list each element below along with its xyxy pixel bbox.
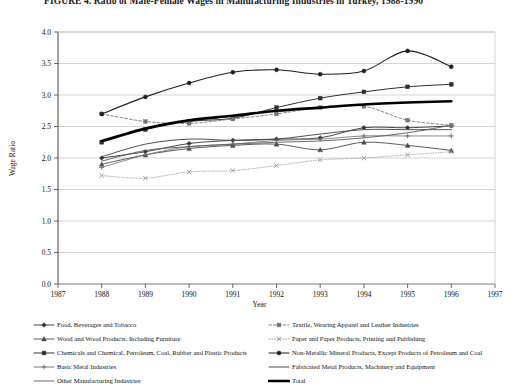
legend-column-right: Textile, Wearing Apparel and Leather Ind… bbox=[268, 318, 516, 388]
legend-swatch bbox=[268, 375, 290, 387]
data-point-marker bbox=[275, 68, 279, 72]
data-point-marker bbox=[187, 81, 191, 85]
legend-marker-icon bbox=[33, 361, 55, 373]
x-tick-label: 1987 bbox=[51, 290, 66, 299]
legend-label: Paper and Paper Products, Printing and P… bbox=[292, 336, 425, 343]
data-point-marker bbox=[144, 120, 148, 124]
x-tick-label: 1990 bbox=[182, 290, 197, 299]
legend-item[interactable]: Food, Beverages and Tobacco bbox=[33, 318, 273, 332]
legend-swatch bbox=[33, 361, 55, 373]
x-tick-label: 1996 bbox=[444, 290, 459, 299]
legend-marker-icon bbox=[33, 375, 55, 387]
legend-swatch bbox=[268, 361, 290, 373]
legend-item[interactable]: Paper and Paper Products, Printing and P… bbox=[268, 332, 516, 346]
y-tick-label: 4.0 bbox=[42, 28, 52, 37]
legend-marker-icon bbox=[268, 375, 290, 387]
legend-label: Wood and Wood Products, Including Furnit… bbox=[57, 336, 180, 343]
legend-swatch bbox=[268, 347, 290, 359]
legend-marker-icon bbox=[268, 347, 290, 359]
data-point-marker bbox=[449, 65, 453, 69]
y-tick-label: 3.5 bbox=[42, 59, 52, 68]
legend-item[interactable]: Non-Metallic Mineral Products, Except Pr… bbox=[268, 346, 516, 360]
legend-marker-icon bbox=[33, 347, 55, 359]
legend-item[interactable]: Fabricated Metal Products, Machinery and… bbox=[268, 360, 516, 374]
data-point-marker bbox=[42, 323, 47, 328]
legend-marker-icon bbox=[33, 333, 55, 345]
y-tick-label: 1.0 bbox=[42, 217, 52, 226]
data-point-marker bbox=[318, 72, 322, 76]
y-tick-label: 2.5 bbox=[42, 122, 52, 131]
data-point-marker bbox=[362, 90, 366, 94]
data-point-marker bbox=[277, 323, 281, 327]
chart-plot-area: 0.00.51.01.52.02.53.03.54.01987198819891… bbox=[0, 14, 519, 314]
legend-label: Other Manufacturing Industries bbox=[57, 378, 141, 385]
y-axis-title: Wage Ratio bbox=[8, 129, 17, 189]
legend-marker-icon bbox=[268, 319, 290, 331]
series-line bbox=[102, 51, 452, 114]
x-tick-label: 1989 bbox=[138, 290, 153, 299]
legend-swatch bbox=[33, 375, 55, 387]
y-tick-label: 0.0 bbox=[42, 280, 52, 289]
data-point-marker bbox=[100, 112, 104, 116]
legend-item[interactable]: Wood and Wood Products, Including Furnit… bbox=[33, 332, 273, 346]
legend-item[interactable]: Basic Metal Industries bbox=[33, 360, 273, 374]
x-tick-label: 1992 bbox=[269, 290, 284, 299]
chart-legend: Food, Beverages and TobaccoWood and Wood… bbox=[0, 318, 519, 389]
legend-column-left: Food, Beverages and TobaccoWood and Wood… bbox=[33, 318, 273, 388]
legend-label: Total bbox=[292, 378, 305, 385]
data-point-marker bbox=[42, 351, 46, 355]
legend-item[interactable]: Textile, Wearing Apparel and Leather Ind… bbox=[268, 318, 516, 332]
legend-label: Chemicals and Chemical, Petroleum, Coal,… bbox=[57, 350, 247, 357]
data-point-marker bbox=[231, 117, 235, 121]
data-point-marker bbox=[187, 121, 191, 125]
legend-swatch bbox=[268, 319, 290, 331]
x-tick-label: 1991 bbox=[225, 290, 240, 299]
legend-swatch bbox=[33, 319, 55, 331]
data-point-marker bbox=[275, 112, 279, 116]
series-6 bbox=[100, 150, 454, 181]
legend-swatch bbox=[33, 333, 55, 345]
x-tick-label: 1995 bbox=[400, 290, 415, 299]
data-point-marker bbox=[406, 49, 410, 53]
legend-item[interactable]: Chemicals and Chemical, Petroleum, Coal,… bbox=[33, 346, 273, 360]
y-tick-label: 0.5 bbox=[42, 248, 52, 257]
data-point-marker bbox=[449, 123, 453, 127]
x-tick-label: 1993 bbox=[313, 290, 328, 299]
data-point-marker bbox=[277, 351, 281, 355]
legend-label: Non-Metallic Mineral Products, Except Pr… bbox=[292, 350, 482, 357]
data-point-marker bbox=[318, 96, 322, 100]
legend-marker-icon bbox=[33, 319, 55, 331]
legend-label: Fabricated Metal Products, Machinery and… bbox=[292, 364, 435, 371]
legend-swatch bbox=[268, 333, 290, 345]
legend-marker-icon bbox=[268, 361, 290, 373]
legend-marker-icon bbox=[268, 333, 290, 345]
x-axis-title: Year bbox=[0, 300, 519, 309]
data-point-marker bbox=[449, 82, 453, 86]
data-point-marker bbox=[406, 118, 410, 122]
x-tick-label: 1997 bbox=[488, 290, 503, 299]
y-tick-label: 3.0 bbox=[42, 91, 52, 100]
x-tick-label: 1988 bbox=[94, 290, 109, 299]
data-point-marker bbox=[406, 85, 410, 89]
legend-label: Basic Metal Industries bbox=[57, 364, 116, 371]
legend-item[interactable]: Other Manufacturing Industries bbox=[33, 374, 273, 388]
y-tick-label: 1.5 bbox=[42, 185, 52, 194]
y-tick-label: 2.0 bbox=[42, 154, 52, 163]
line-chart-svg: 0.00.51.01.52.02.53.03.54.01987198819891… bbox=[0, 14, 519, 314]
legend-swatch bbox=[33, 347, 55, 359]
legend-label: Textile, Wearing Apparel and Leather Ind… bbox=[292, 322, 419, 329]
legend-item[interactable]: Total bbox=[268, 374, 516, 388]
data-point-marker bbox=[275, 106, 279, 110]
data-point-marker bbox=[143, 95, 147, 99]
x-tick-label: 1994 bbox=[356, 290, 371, 299]
data-point-marker bbox=[362, 69, 366, 73]
legend-label: Food, Beverages and Tobacco bbox=[57, 322, 136, 329]
figure-title: FIGURE 4. Ratio of Male-Female Wages in … bbox=[44, 0, 504, 8]
data-point-marker bbox=[231, 70, 235, 74]
